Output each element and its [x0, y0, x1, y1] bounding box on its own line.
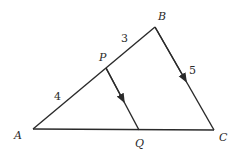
length-bc: 5 — [189, 64, 196, 77]
length-ap: 4 — [54, 90, 61, 103]
segment-ac — [33, 129, 214, 130]
segment-bc-arrow — [155, 27, 185, 79]
label-p: P — [98, 51, 107, 64]
label-q: Q — [135, 137, 144, 150]
label-b: B — [157, 10, 166, 23]
segment-ab — [33, 27, 155, 129]
segment-pq-arrow — [106, 68, 123, 99]
label-c: C — [219, 131, 228, 144]
label-a: A — [13, 129, 22, 142]
triangle-diagram: B A C P Q 3 4 5 — [0, 0, 238, 151]
length-pb: 3 — [121, 32, 128, 45]
diagram-canvas: B A C P Q 3 4 5 — [0, 0, 238, 151]
